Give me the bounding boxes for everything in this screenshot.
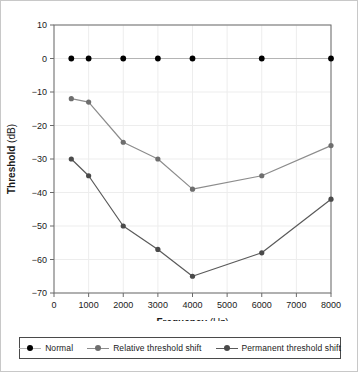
data-point-marker (69, 96, 74, 101)
data-series (68, 56, 333, 62)
y-axis-title: Threshold (dB) (6, 124, 17, 194)
x-tick-label: 4000 (182, 300, 202, 310)
data-point-marker (86, 56, 92, 62)
x-tick-label: 8000 (321, 300, 341, 310)
data-point-marker (155, 156, 160, 161)
x-tick-label: 2000 (113, 300, 133, 310)
legend-label: Normal (45, 343, 73, 353)
x-tick-label: 5000 (217, 300, 237, 310)
legend-entry[interactable]: Permanent threshold shift (216, 343, 341, 353)
legend-marker-icon (19, 344, 41, 353)
data-point-marker (121, 140, 126, 145)
legend-dot-icon (224, 345, 230, 351)
series-line (71, 159, 331, 276)
y-tick-label: 0 (42, 54, 47, 64)
data-series-layer (68, 56, 333, 279)
data-series (69, 96, 334, 192)
chart-legend: NormalRelative threshold shiftPermanent … (19, 337, 341, 359)
data-point-marker (328, 56, 334, 62)
x-tick-label: 7000 (286, 300, 306, 310)
legend-entry[interactable]: Normal (19, 343, 73, 353)
chart-plot-region: 100−10−20−30−40−50−60−700100020003000400… (1, 1, 358, 321)
x-axis-title: Frequency (Hz) (156, 317, 228, 321)
y-tick-label: −30 (32, 154, 47, 164)
legend-dot-icon (95, 345, 101, 351)
x-tick-label: 6000 (252, 300, 272, 310)
legend-entry[interactable]: Relative threshold shift (87, 343, 201, 353)
threshold-line-chart: 100−10−20−30−40−50−60−700100020003000400… (1, 1, 358, 321)
data-point-marker (259, 173, 264, 178)
data-point-marker (155, 56, 161, 62)
data-point-marker (190, 274, 195, 279)
x-tick-label: 3000 (148, 300, 168, 310)
y-tick-label: −10 (32, 87, 47, 97)
data-series (69, 156, 334, 278)
audiogram-figure: 100−10−20−30−40−50−60−700100020003000400… (0, 0, 358, 372)
series-line (71, 99, 331, 189)
data-point-marker (190, 187, 195, 192)
data-point-marker (121, 223, 126, 228)
data-point-marker (86, 99, 91, 104)
data-point-marker (328, 143, 333, 148)
legend-marker-icon (216, 344, 238, 353)
legend-label: Relative threshold shift (113, 343, 201, 353)
data-point-marker (120, 56, 126, 62)
data-point-marker (69, 156, 74, 161)
data-point-marker (259, 56, 265, 62)
legend-dot-icon (27, 345, 33, 351)
y-tick-label: −20 (32, 121, 47, 131)
data-point-marker (190, 56, 196, 62)
y-tick-label: 10 (37, 20, 47, 30)
y-tick-label: −60 (32, 255, 47, 265)
gridlines (54, 25, 331, 293)
y-tick-label: −40 (32, 188, 47, 198)
data-point-marker (155, 247, 160, 252)
legend-label: Permanent threshold shift (242, 343, 341, 353)
y-tick-label: −50 (32, 221, 47, 231)
y-tick-label: −70 (32, 288, 47, 298)
x-tick-label: 1000 (79, 300, 99, 310)
x-tick-label: 0 (51, 300, 56, 310)
data-point-marker (328, 197, 333, 202)
data-point-marker (259, 250, 264, 255)
data-point-marker (68, 56, 74, 62)
data-point-marker (86, 173, 91, 178)
axis-ticks (50, 25, 331, 297)
legend-marker-icon (87, 344, 109, 353)
